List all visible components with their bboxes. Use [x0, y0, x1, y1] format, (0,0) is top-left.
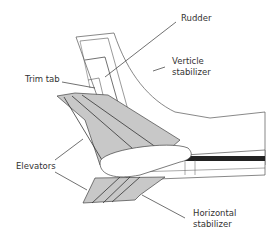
label-trim-tab: Trim tab — [25, 74, 60, 85]
tail-illustration — [0, 0, 275, 235]
fuselage-stripe — [185, 156, 265, 161]
label-elevators: Elevators — [16, 161, 56, 172]
leader-vertical-stabilizer — [153, 67, 165, 71]
lower-stabilizer — [83, 177, 165, 203]
leader-elevators-upper — [55, 139, 83, 160]
label-vertical-stabilizer-2: stabilizer — [172, 67, 211, 78]
leader-horizontal-stabilizer — [142, 195, 185, 218]
leader-trim-tab — [62, 82, 95, 88]
leader-elevators-lower — [55, 172, 87, 190]
label-horizontal-stabilizer-2: stabilizer — [193, 219, 232, 230]
tail-diagram: Rudder Verticle stabilizer Trim tab Elev… — [0, 0, 275, 235]
label-vertical-stabilizer-1: Verticle — [172, 56, 204, 67]
label-horizontal-stabilizer-1: Horizontal — [193, 208, 236, 219]
label-rudder: Rudder — [181, 13, 211, 24]
